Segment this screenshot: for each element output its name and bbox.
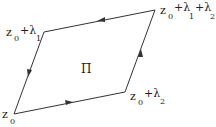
label-z0-plus-lambda1-plus-lambda2: z 0 +λ 1 +λ 2 — [160, 1, 215, 21]
svg-text:2: 2 — [160, 97, 165, 106]
svg-text:0: 0 — [14, 34, 19, 43]
svg-text:1: 1 — [189, 12, 194, 21]
svg-text:1: 1 — [36, 34, 41, 43]
diagram-canvas: Π z 0 z 0 +λ 1 z 0 +λ 2 z 0 +λ 1 +λ 2 — [0, 0, 216, 127]
svg-text:+λ: +λ — [20, 24, 36, 37]
label-z0-plus-lambda1: z 0 +λ 1 — [6, 24, 41, 43]
svg-text:z: z — [130, 90, 136, 103]
svg-text:2: 2 — [210, 12, 215, 21]
svg-text:+λ: +λ — [174, 1, 190, 14]
label-z0-plus-lambda2: z 0 +λ 2 — [130, 87, 165, 107]
arrow-bottom-icon — [65, 100, 73, 105]
svg-text:z: z — [6, 26, 12, 39]
region-label: Π — [81, 62, 91, 76]
svg-text:0: 0 — [138, 98, 143, 107]
svg-text:0: 0 — [10, 117, 15, 126]
label-z0: z 0 — [2, 108, 15, 126]
svg-text:0: 0 — [168, 12, 173, 21]
edge-right — [125, 10, 155, 92]
svg-text:z: z — [2, 108, 8, 121]
svg-text:z: z — [160, 4, 166, 17]
svg-text:+λ: +λ — [144, 87, 160, 100]
parallelogram-diagram: Π z 0 z 0 +λ 1 z 0 +λ 2 z 0 +λ 1 +λ 2 — [0, 0, 216, 127]
svg-text:+λ: +λ — [195, 1, 211, 14]
